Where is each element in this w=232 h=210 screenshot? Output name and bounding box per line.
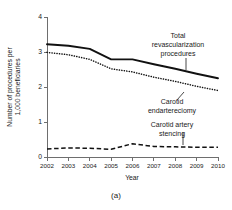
figure-caption: (a) <box>111 191 121 200</box>
x-axis-title: Year <box>125 174 139 181</box>
annotation-label: stencing <box>159 130 185 138</box>
annotation-label: procedures <box>160 50 196 58</box>
y-tick-label: 3 <box>38 48 42 55</box>
annotation-label: Total <box>171 32 186 39</box>
annotation-label: revascularization <box>152 41 205 48</box>
y-tick-label: 4 <box>38 13 42 20</box>
x-tick-label: 2008 <box>168 162 182 169</box>
y-tick-label: 1 <box>38 118 42 125</box>
x-tick-label: 2007 <box>147 162 161 169</box>
x-tick-label: 2002 <box>40 162 54 169</box>
annotation-label: Carotid <box>161 98 184 105</box>
x-tick-label: 2006 <box>126 162 140 169</box>
annotation-group: TotalrevascularizationproceduresCarotide… <box>148 32 204 145</box>
figure-panel: 01234 2002200320042005200620072008200920… <box>0 0 232 210</box>
chart-axes <box>47 17 218 157</box>
x-tick-label: 2004 <box>83 162 97 169</box>
annotation-label: Carotid artery <box>151 121 194 129</box>
x-tick-label: 2003 <box>61 162 75 169</box>
series-line-dashed <box>47 144 218 150</box>
annotation-total-revascularization: Totalrevascularizationprocedures <box>152 32 205 70</box>
y-tick-label: 0 <box>38 153 42 160</box>
annotation-carotid-endarterectomy: Carotidendartereciomy <box>148 92 197 115</box>
y-axis-title: Number of procedures per 1,000 beneficia… <box>6 47 21 127</box>
annotation-label: endartereciomy <box>148 107 197 115</box>
series-line-dotted <box>47 52 218 90</box>
y-axis-title-line1: Number of procedures per <box>6 47 14 127</box>
y-tick-group: 01234 <box>38 13 47 160</box>
x-tick-label: 2010 <box>211 162 225 169</box>
annotation-carotid-artery-stenting: Carotid arterystencing <box>151 121 194 145</box>
y-axis-title-line2: 1,000 beneficiaries <box>14 58 21 116</box>
y-tick-label: 2 <box>38 83 42 90</box>
data-series-group <box>47 44 218 149</box>
x-tick-group: 200220032004200520062007200820092010 <box>40 157 225 169</box>
x-tick-label: 2009 <box>190 162 204 169</box>
x-tick-label: 2005 <box>104 162 118 169</box>
line-chart: 01234 2002200320042005200620072008200920… <box>0 0 232 210</box>
